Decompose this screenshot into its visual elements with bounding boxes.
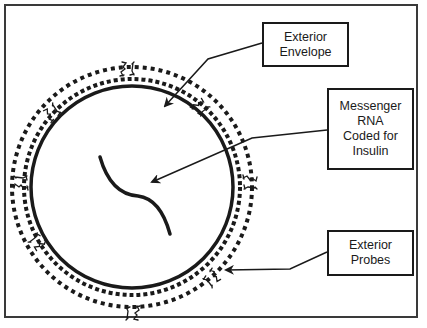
probe-icon — [243, 175, 257, 189]
mrna-arrow — [152, 130, 327, 182]
mrna-strand — [100, 157, 170, 234]
exterior-probes-label: Exterior Probes — [327, 230, 414, 276]
messenger-rna-text: Messenger RNA Coded for Insulin — [340, 99, 402, 159]
exterior-probes-text: Exterior Probes — [349, 238, 392, 268]
exterior-envelope-text: Exterior Envelope — [279, 30, 331, 60]
exterior-envelope-label: Exterior Envelope — [262, 22, 349, 67]
solid-membrane — [31, 86, 233, 288]
probe-icon — [202, 268, 222, 288]
messenger-rna-label: Messenger RNA Coded for Insulin — [327, 88, 414, 170]
probes-arrow — [226, 252, 327, 270]
outer-dotted-ring — [12, 67, 252, 307]
